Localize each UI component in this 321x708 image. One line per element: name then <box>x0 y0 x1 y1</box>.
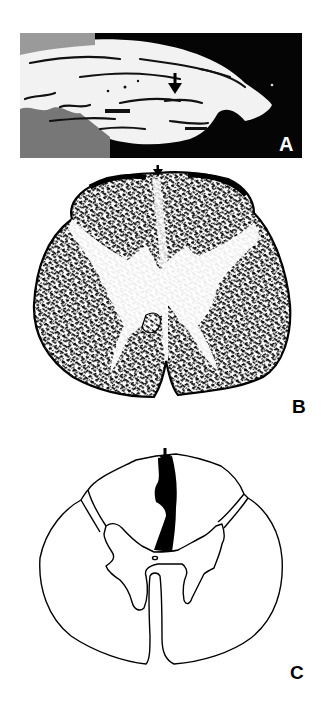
panel-label-a: A <box>279 134 293 154</box>
panel-c-image <box>36 448 288 674</box>
lesion-region <box>154 456 177 552</box>
panel-a-image <box>20 33 302 158</box>
panel-b-histology <box>28 165 300 401</box>
panel-label-c: C <box>290 663 304 682</box>
panel-a-photograph: A <box>20 33 302 158</box>
panel-c-schematic <box>36 448 288 674</box>
panel-label-b: B <box>292 397 306 416</box>
panel-b-image <box>28 165 300 401</box>
